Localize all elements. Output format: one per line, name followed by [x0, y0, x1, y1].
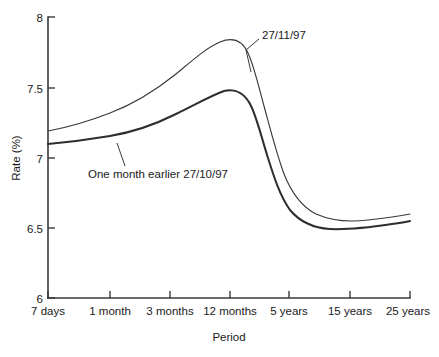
- x-axis-title: Period: [212, 331, 245, 343]
- x-tick-label-5-years: 5 years: [270, 305, 308, 317]
- x-tick-label-3-months: 3 months: [146, 305, 194, 317]
- annotation-27-11-97: 27/11/97: [262, 29, 306, 41]
- leader-line-27-11-97: [246, 39, 259, 50]
- curve-27-10-97: [48, 90, 410, 229]
- y-axis-title: Rate (%): [10, 135, 22, 181]
- yield-curve-chart: 8 7.5 7 6.5 6 7 days 1 month 3 months 12…: [0, 0, 439, 357]
- y-tick-label-8: 8: [37, 12, 43, 24]
- x-tick-label-25-years: 25 years: [386, 305, 430, 317]
- y-tick-label-6: 6: [37, 293, 43, 305]
- leader-line-27-10-97: [117, 143, 125, 166]
- y-tick-label-7: 7: [37, 153, 43, 165]
- x-tick-label-12-months: 12 months: [203, 305, 257, 317]
- x-tick-label-15-years: 15 years: [328, 305, 372, 317]
- y-tick-label-7-5: 7.5: [27, 83, 43, 95]
- x-axis-ticks: [48, 291, 410, 298]
- y-axis-ticks: [48, 17, 55, 298]
- x-tick-label-1-month: 1 month: [89, 305, 131, 317]
- y-tick-label-6-5: 6.5: [27, 223, 43, 235]
- y-axis-tick-labels: 8 7.5 7 6.5 6: [27, 12, 43, 305]
- curve-27-11-97: [48, 40, 410, 221]
- chart-canvas: 8 7.5 7 6.5 6 7 days 1 month 3 months 12…: [0, 0, 439, 357]
- x-axis-tick-labels: 7 days 1 month 3 months 12 months 5 year…: [31, 305, 430, 317]
- annotation-27-10-97: One month earlier 27/10/97: [88, 168, 228, 180]
- x-tick-label-7-days: 7 days: [31, 305, 65, 317]
